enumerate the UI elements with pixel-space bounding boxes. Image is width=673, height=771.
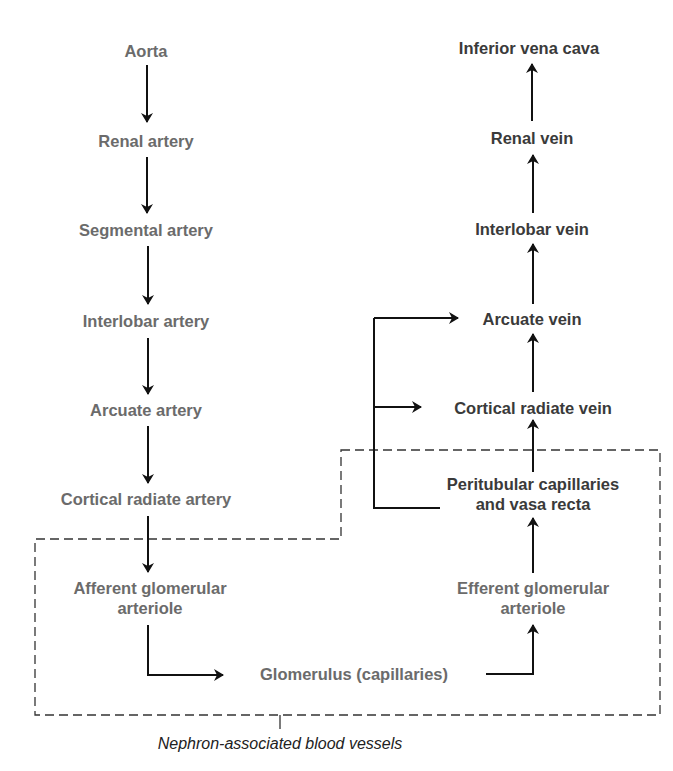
- node-renal-vein: Renal vein: [491, 128, 574, 148]
- node-aorta: Aorta: [124, 41, 167, 61]
- efferent-label-line1: Efferent glomerular: [457, 578, 609, 598]
- node-cortical-radiate-artery: Cortical radiate artery: [61, 489, 232, 509]
- efferent-label-line2: arteriole: [457, 598, 609, 618]
- node-inferior-vena-cava: Inferior vena cava: [459, 38, 599, 58]
- node-arcuate-artery: Arcuate artery: [90, 400, 202, 420]
- afferent-label-line1: Afferent glomerular: [73, 578, 226, 598]
- arrow-afferent-glomerulus: [148, 625, 223, 675]
- afferent-label-line2: arteriole: [73, 598, 226, 618]
- node-arcuate-vein: Arcuate vein: [482, 309, 581, 329]
- node-cortical-radiate-vein: Cortical radiate vein: [454, 398, 612, 418]
- node-efferent-arteriole: Efferent glomerular arteriole: [457, 578, 609, 618]
- bypass-line: [374, 318, 440, 508]
- peritubular-label-line2: and vasa recta: [447, 494, 619, 514]
- node-peritubular-capillaries: Peritubular capillaries and vasa recta: [447, 474, 619, 514]
- arrow-glomerulus-efferent: [486, 625, 533, 674]
- node-segmental-artery: Segmental artery: [79, 220, 213, 240]
- node-interlobar-vein: Interlobar vein: [475, 219, 589, 239]
- node-afferent-arteriole: Afferent glomerular arteriole: [73, 578, 226, 618]
- boundary-caption: Nephron-associated blood vessels: [158, 735, 403, 753]
- node-renal-artery: Renal artery: [98, 131, 193, 151]
- peritubular-label-line1: Peritubular capillaries: [447, 474, 619, 494]
- diagram-connectors: [0, 0, 673, 771]
- node-interlobar-artery: Interlobar artery: [83, 311, 210, 331]
- node-glomerulus: Glomerulus (capillaries): [260, 664, 448, 684]
